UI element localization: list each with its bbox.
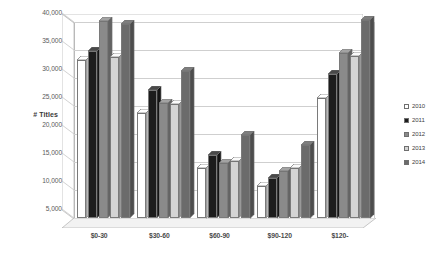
- chart-legend: 20102011201220132014: [404, 99, 448, 169]
- bar-120--2013: [350, 56, 359, 218]
- bar-face: [137, 113, 146, 218]
- bar-side: [370, 16, 375, 219]
- bar-top: [148, 86, 161, 91]
- bar-120--2012: [339, 53, 348, 218]
- bar-face: [77, 60, 86, 218]
- legend-item-2012[interactable]: 2012: [404, 127, 448, 141]
- bar-face: [230, 161, 239, 218]
- bar-top: [241, 131, 254, 136]
- legend-swatch-icon: [404, 132, 409, 137]
- bar-face: [350, 56, 359, 218]
- bar-face: [290, 168, 299, 218]
- bar-30-60-2014: [181, 71, 190, 218]
- bar-group: [77, 22, 130, 218]
- bar-face: [159, 103, 168, 218]
- bar-face: [339, 53, 348, 218]
- legend-item-2013[interactable]: 2013: [404, 141, 448, 155]
- bar-face: [99, 21, 108, 218]
- bar-60-90-2013: [230, 161, 239, 218]
- bar-top: [361, 16, 374, 21]
- legend-label: 2014: [412, 159, 425, 165]
- legend-swatch-icon: [404, 104, 409, 109]
- x-axis-label: $90-120: [248, 232, 312, 239]
- bar-0-30-2013: [110, 57, 119, 218]
- bar-top: [99, 17, 112, 22]
- bar-face: [208, 155, 217, 218]
- bar-top: [208, 151, 221, 156]
- bar-top: [121, 20, 134, 25]
- bar-face: [170, 104, 179, 218]
- bar-face: [181, 71, 190, 218]
- bar-120--2014: [361, 20, 370, 218]
- legend-item-2011[interactable]: 2011: [404, 113, 448, 127]
- bar-side: [130, 20, 135, 219]
- legend-item-2014[interactable]: 2014: [404, 155, 448, 169]
- bar-top: [301, 141, 314, 146]
- bar-group: [257, 22, 310, 218]
- bar-face: [328, 74, 337, 218]
- bar-group: [137, 22, 190, 218]
- bar-60-90-2014: [241, 135, 250, 218]
- bar-30-60-2010: [137, 113, 146, 218]
- legend-label: 2012: [412, 131, 425, 137]
- x-axis-label: $30-60: [127, 232, 191, 239]
- bar-0-30-2014: [121, 24, 130, 218]
- bar-face: [148, 90, 157, 218]
- bar-0-30-2010: [77, 60, 86, 218]
- bar-face: [317, 98, 326, 218]
- bar-30-60-2011: [148, 90, 157, 218]
- legend-item-2010[interactable]: 2010: [404, 99, 448, 113]
- x-axis-label: $0-30: [67, 232, 131, 239]
- legend-swatch-icon: [404, 146, 409, 151]
- bar-face: [241, 135, 250, 218]
- bar-top: [181, 67, 194, 72]
- bar-group: [197, 22, 250, 218]
- bar-120--2011: [328, 74, 337, 218]
- bar-side: [250, 131, 255, 219]
- bar-90-120-2010: [257, 186, 266, 218]
- bars-layer: [0, 0, 448, 259]
- bar-group: [317, 22, 370, 218]
- bar-0-30-2012: [99, 21, 108, 218]
- bar-side: [190, 67, 195, 219]
- bar-face: [219, 163, 228, 218]
- legend-label: 2011: [412, 117, 425, 123]
- bar-face: [268, 178, 277, 218]
- bar-face: [110, 57, 119, 218]
- bar-face: [257, 186, 266, 218]
- legend-label: 2013: [412, 145, 425, 151]
- bar-60-90-2012: [219, 163, 228, 218]
- legend-swatch-icon: [404, 160, 409, 165]
- bar-face: [121, 24, 130, 218]
- bar-90-120-2012: [279, 171, 288, 218]
- bar-side: [310, 141, 315, 219]
- bar-face: [361, 20, 370, 218]
- bar-0-30-2011: [88, 51, 97, 218]
- bar-90-120-2013: [290, 168, 299, 218]
- bar-face: [88, 51, 97, 218]
- bar-face: [279, 171, 288, 218]
- bar-face: [301, 145, 310, 218]
- bar-30-60-2012: [159, 103, 168, 218]
- bar-90-120-2011: [268, 178, 277, 218]
- bar-30-60-2013: [170, 104, 179, 218]
- x-axis-label: $120-: [308, 232, 372, 239]
- bar-chart: 40,00035,00030,00025,00020,00015,00010,0…: [0, 0, 448, 259]
- bar-90-120-2014: [301, 145, 310, 218]
- bar-60-90-2010: [197, 168, 206, 218]
- legend-label: 2010: [412, 103, 425, 109]
- legend-swatch-icon: [404, 118, 409, 123]
- bar-60-90-2011: [208, 155, 217, 218]
- bar-120--2010: [317, 98, 326, 218]
- bar-face: [197, 168, 206, 218]
- x-axis-label: $60-90: [188, 232, 252, 239]
